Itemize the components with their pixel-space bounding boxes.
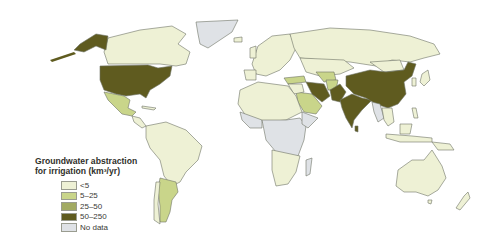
legend-item-25-50: 25–50 <box>61 201 137 212</box>
legend-items: <5 5–25 25–50 50–250 No data <box>61 180 137 233</box>
legend-swatch <box>61 213 77 222</box>
region-indochina <box>382 108 394 126</box>
region-horn-of-africa <box>302 112 318 128</box>
region-iceland <box>234 37 242 42</box>
region-caribbean <box>142 106 156 110</box>
legend-swatch <box>61 181 77 190</box>
legend-item-5-25: 5–25 <box>61 191 137 202</box>
legend-label: 50–250 <box>80 212 107 221</box>
region-australia <box>396 150 446 196</box>
region-madagascar <box>306 158 312 176</box>
region-southern-africa <box>272 150 300 186</box>
region-iberia <box>244 70 256 80</box>
region-mongolia <box>370 60 404 72</box>
region-central-america <box>132 116 146 128</box>
legend-label: No data <box>80 223 108 232</box>
region-korea <box>412 78 416 86</box>
region-japan <box>420 70 430 86</box>
legend-item-lt5: <5 <box>61 180 137 191</box>
legend-label: <5 <box>80 181 89 190</box>
region-argentina <box>158 178 178 222</box>
region-india <box>340 94 372 128</box>
region-turkey <box>284 76 306 84</box>
region-new-zealand <box>456 192 470 210</box>
region-central-africa <box>262 118 306 158</box>
legend-item-no-data: No data <box>61 222 137 233</box>
region-philippines <box>412 108 418 118</box>
legend-swatch <box>61 223 77 232</box>
region-tasmania <box>428 200 432 204</box>
region-new-guinea <box>432 142 454 150</box>
legend-label: 5–25 <box>80 191 98 200</box>
region-uk <box>250 46 256 58</box>
legend: Groundwater abstraction for irrigation (… <box>35 156 137 233</box>
region-alaska <box>74 34 108 52</box>
region-usa <box>100 65 172 98</box>
legend-title-line2: for irrigation (km³/yr) <box>35 166 137 176</box>
region-sri-lanka <box>355 126 358 132</box>
region-chile <box>154 182 160 224</box>
region-borneo <box>400 124 412 134</box>
legend-label: 25–50 <box>80 202 102 211</box>
region-greenland <box>196 20 238 48</box>
region-indonesia <box>386 134 432 142</box>
legend-item-50-250: 50–250 <box>61 212 137 223</box>
legend-swatch <box>61 202 77 211</box>
region-aleutians <box>50 52 76 62</box>
legend-title-line1: Groundwater abstraction <box>35 156 137 166</box>
legend-swatch <box>61 192 77 201</box>
region-europe <box>252 34 296 76</box>
region-south-america-north <box>146 122 202 186</box>
region-canada <box>104 26 190 66</box>
region-mexico <box>104 92 136 116</box>
